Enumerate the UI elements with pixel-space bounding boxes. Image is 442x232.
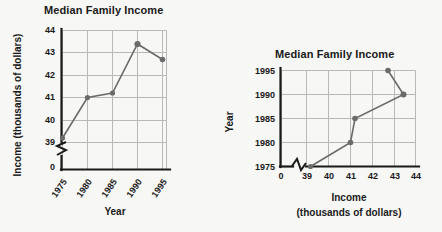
data-point [134,41,140,47]
chart-left-xlabel: Year [62,206,168,217]
data-point [308,164,313,169]
chart-left-gridlines [63,31,167,170]
chart-right-xtick-41: 41 [341,171,361,181]
chart-right-gridlines [282,71,416,167]
chart-right-xtick-0: 0 [271,171,291,181]
data-point [60,135,65,140]
chart-right-xtick-44: 44 [406,171,426,181]
data-point [385,68,391,74]
chart-right-xtick-40: 40 [319,171,339,181]
chart-right-xlabel: Income [281,192,417,203]
chart-left-plot [0,0,221,232]
data-point [110,90,115,95]
chart-right-axis-break-zigzag [292,159,306,170]
chart-right-xtick-39: 39 [297,171,317,181]
chart-right-axis-spines [280,68,419,167]
data-point [160,57,166,63]
chart-left-axis-spines [61,29,170,170]
data-point [352,116,358,122]
chart-right-xtick-42: 42 [363,171,383,181]
chart-right-xlabel-units: (thousands of dollars) [271,207,427,218]
data-point [348,140,354,146]
data-point [401,92,407,98]
chart-right-xtick-43: 43 [385,171,405,181]
data-point [85,95,90,100]
chart-left-axis-break-zigzag [57,142,66,155]
figure-canvas: Median Family Income Income (thousands o… [0,0,442,232]
chart-right: Median Family Income Year 1995 1990 1985… [221,0,442,232]
chart-left: Median Family Income Income (thousands o… [0,0,221,232]
